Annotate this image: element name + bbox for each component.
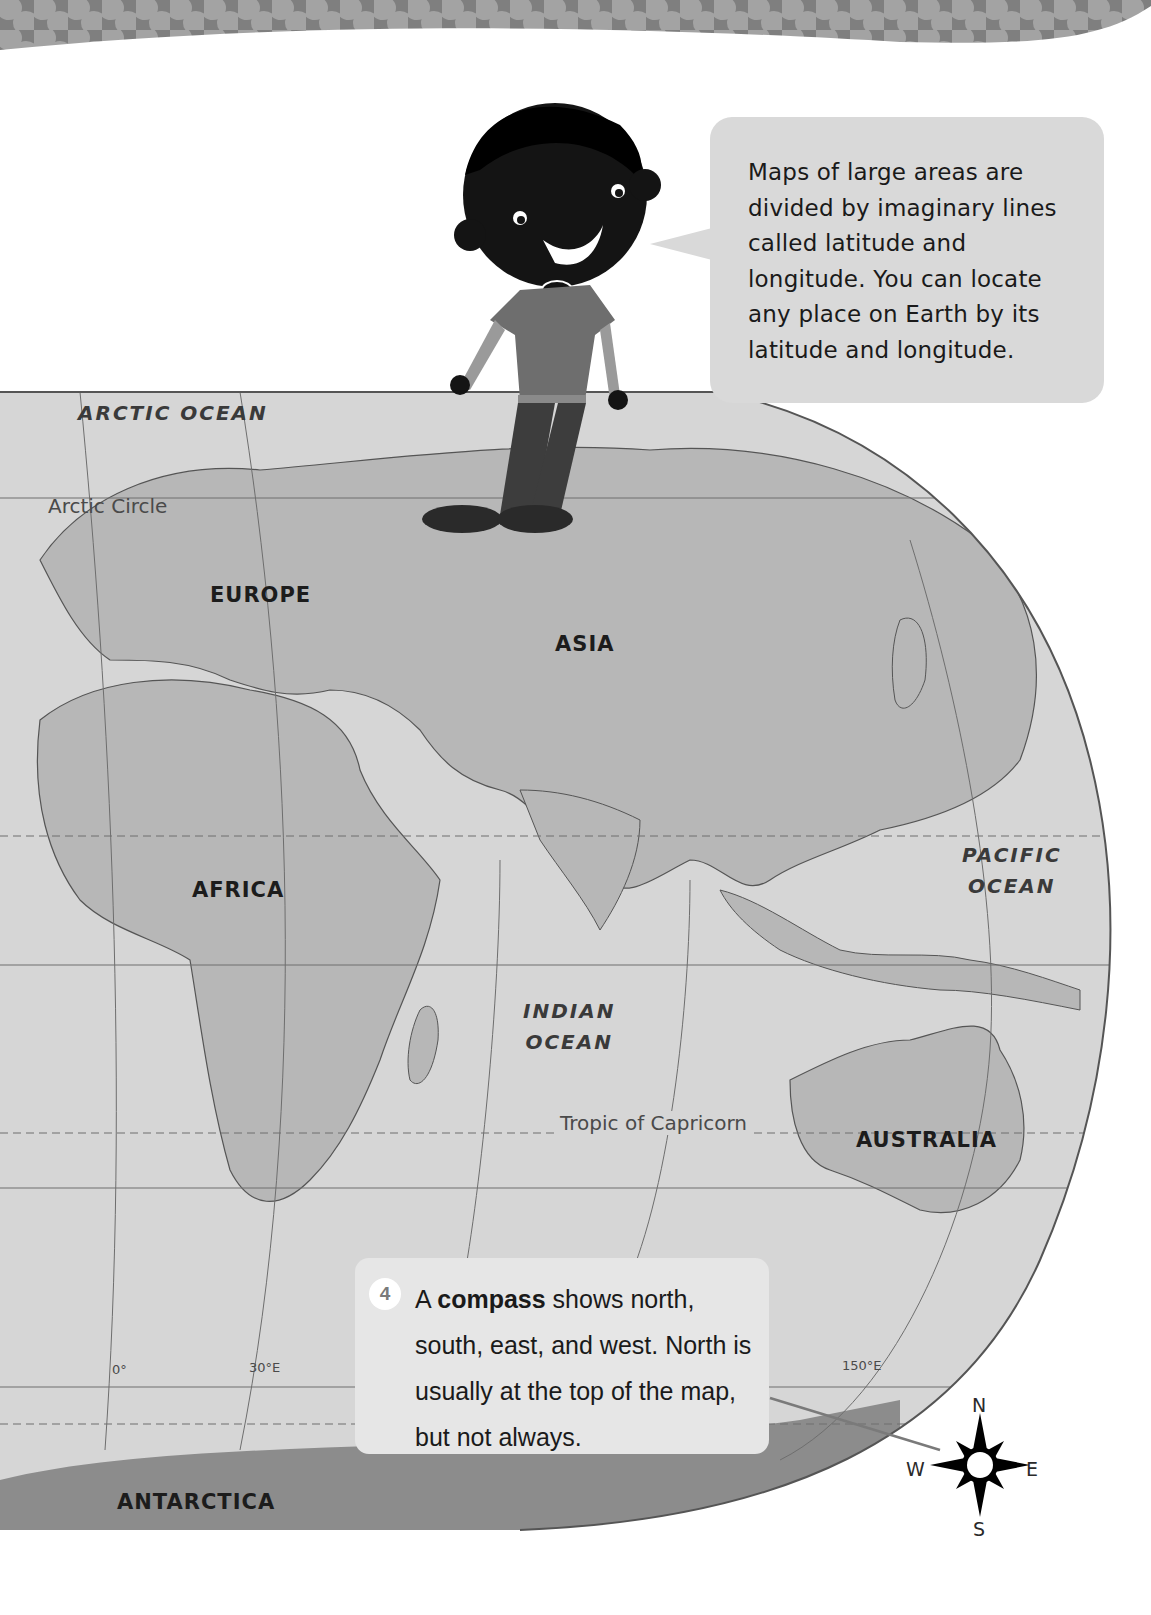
speech-bubble-tail xyxy=(650,228,712,260)
label-australia: AUSTRALIA xyxy=(856,1128,997,1152)
label-asia: ASIA xyxy=(555,632,614,656)
boy-character-illustration xyxy=(420,95,670,535)
boy-shirt xyxy=(490,285,615,400)
label-antarctica: ANTARCTICA xyxy=(117,1490,275,1514)
boy-shoe-left xyxy=(422,505,502,533)
label-africa: AFRICA xyxy=(192,878,284,902)
callout-term-compass: compass xyxy=(437,1285,545,1313)
label-pacific-line2: OCEAN xyxy=(962,871,1062,902)
label-indian-line1: INDIAN xyxy=(523,996,615,1027)
label-indian-ocean: INDIAN OCEAN xyxy=(523,996,615,1058)
longitude-label-150e: 150°E xyxy=(842,1358,882,1373)
compass-south-label: S xyxy=(973,1518,985,1540)
callout-text: A compass shows north, south, east, and … xyxy=(415,1276,755,1460)
boy-shoe-right xyxy=(497,505,573,533)
label-arctic-ocean: ARCTIC OCEAN xyxy=(78,398,268,429)
speech-bubble: Maps of large areas are divided by imagi… xyxy=(710,117,1104,403)
compass-north-label: N xyxy=(972,1394,986,1416)
longitude-label-30e: 30°E xyxy=(249,1360,280,1375)
compass-callout-box: 4 A compass shows north, south, east, an… xyxy=(355,1258,769,1454)
compass-east-label: E xyxy=(1026,1458,1038,1480)
label-arctic-circle: Arctic Circle xyxy=(48,494,167,518)
longitude-label-0: 0° xyxy=(112,1362,127,1377)
label-europe: EUROPE xyxy=(210,583,311,607)
speech-bubble-text: Maps of large areas are divided by imagi… xyxy=(748,155,1088,368)
label-pacific-ocean: PACIFIC OCEAN xyxy=(962,840,1062,902)
label-pacific-line1: PACIFIC xyxy=(962,840,1062,871)
callout-number-badge: 4 xyxy=(369,1278,401,1310)
callout-text-before: A xyxy=(415,1285,437,1313)
label-tropic-of-capricorn: Tropic of Capricorn xyxy=(556,1111,751,1135)
compass-rose-icon xyxy=(925,1405,1035,1525)
compass-west-label: W xyxy=(906,1458,925,1480)
label-indian-line2: OCEAN xyxy=(523,1027,615,1058)
